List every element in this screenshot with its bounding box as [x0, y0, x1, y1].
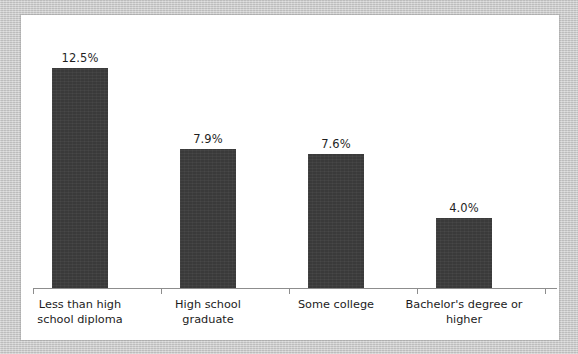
category-label-1-line1: Less than high: [7, 298, 153, 313]
figure-frame: 12.5% 7.9% 7.6% 4.0%: [0, 0, 578, 354]
bar-4-value-label: 4.0%: [449, 201, 479, 215]
bar-1-value-label: 12.5%: [61, 51, 98, 65]
x-axis-tick-0: [33, 288, 34, 294]
category-label-3: Some college: [263, 298, 409, 313]
category-label-4-line2: higher: [391, 313, 537, 328]
category-label-2: High school graduate: [135, 298, 281, 327]
category-label-3-line1: Some college: [263, 298, 409, 313]
bar-chart-plot-area: 12.5% 7.9% 7.6% 4.0%: [21, 15, 559, 340]
category-label-4: Bachelor's degree or higher: [391, 298, 537, 327]
chart-canvas: 12.5% 7.9% 7.6% 4.0%: [21, 15, 559, 340]
x-axis-tick-3: [417, 288, 418, 294]
bar-4[interactable]: [436, 218, 492, 289]
category-label-2-line1: High school: [135, 298, 281, 313]
x-axis-tick-4: [545, 288, 546, 294]
bar-2[interactable]: [180, 149, 236, 289]
bar-2-value-label: 7.9%: [193, 132, 223, 146]
bar-3-value-label: 7.6%: [321, 137, 351, 151]
bar-1[interactable]: [52, 68, 108, 289]
category-label-1: Less than high school diploma: [7, 298, 153, 327]
x-axis-line: [33, 288, 557, 289]
category-label-1-line2: school diploma: [7, 313, 153, 328]
x-axis-tick-2: [289, 288, 290, 294]
category-label-2-line2: graduate: [135, 313, 281, 328]
bar-3[interactable]: [308, 154, 364, 289]
x-axis-tick-1: [161, 288, 162, 294]
category-label-4-line1: Bachelor's degree or: [391, 298, 537, 313]
